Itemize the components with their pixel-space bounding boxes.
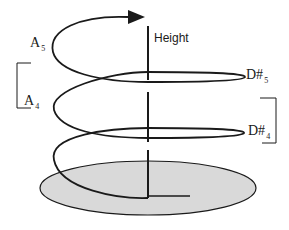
pitch-helix-diagram: Height A5 A4 D#5 D#4 (0, 0, 289, 230)
label-d-sharp-4-base: D# (248, 123, 265, 138)
label-d-sharp-4-sub: 4 (266, 132, 270, 141)
helix-graphic (0, 0, 289, 230)
label-a4-sub: 4 (35, 102, 39, 111)
label-d-sharp-5: D#5 (246, 68, 268, 85)
label-d-sharp-5-base: D# (246, 67, 263, 82)
label-d-sharp-5-sub: 5 (264, 76, 268, 85)
label-a5-base: A (30, 35, 40, 50)
label-a4: A4 (24, 94, 39, 111)
label-a5-sub: 5 (41, 44, 45, 53)
label-a4-base: A (24, 93, 34, 108)
label-d-sharp-4: D#4 (248, 124, 270, 141)
height-axis-label: Height (154, 32, 189, 44)
helix-arrow-head (128, 10, 145, 24)
label-a5: A5 (30, 36, 45, 53)
